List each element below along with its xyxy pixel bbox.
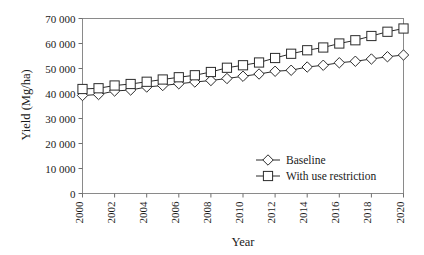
y-tick-label: 10 000 xyxy=(45,163,76,175)
data-point-marker xyxy=(190,71,199,80)
data-point-marker xyxy=(238,61,247,70)
data-point-marker xyxy=(222,63,231,72)
x-tick-label: 2010 xyxy=(233,201,245,224)
data-point-marker xyxy=(94,84,103,93)
data-point-marker xyxy=(206,67,215,76)
y-tick-label: 20 000 xyxy=(45,138,76,150)
data-point-marker xyxy=(367,31,376,40)
data-point-marker xyxy=(383,27,392,36)
legend-label: Baseline xyxy=(286,154,326,166)
x-tick-label: 2006 xyxy=(169,201,181,224)
data-point-marker xyxy=(78,84,87,93)
data-point-marker xyxy=(158,75,167,84)
y-tick-label: 40 000 xyxy=(45,88,76,100)
data-point-marker xyxy=(271,53,280,62)
legend-label: With use restriction xyxy=(286,170,376,182)
data-point-marker xyxy=(319,43,328,52)
data-point-marker xyxy=(303,46,312,55)
x-tick-label: 2014 xyxy=(297,201,309,224)
x-tick-label: 2016 xyxy=(329,201,341,224)
data-point-marker xyxy=(126,79,135,88)
x-tick-label: 2004 xyxy=(137,201,149,224)
x-tick-label: 2000 xyxy=(73,201,85,224)
y-tick-label: 70 000 xyxy=(45,13,76,25)
x-tick-label: 2002 xyxy=(105,202,117,224)
data-point-marker xyxy=(254,58,263,67)
y-tick-label: 50 000 xyxy=(45,63,76,75)
x-tick-label: 2018 xyxy=(361,201,373,224)
data-point-marker xyxy=(174,73,183,82)
legend-marker-square-icon xyxy=(263,171,272,180)
y-tick-label: 0 xyxy=(70,188,76,200)
data-point-marker xyxy=(399,24,408,33)
y-tick-label: 60 000 xyxy=(45,38,76,50)
x-tick-label: 2012 xyxy=(265,202,277,224)
data-point-marker xyxy=(110,81,119,90)
legend-item-baseline[interactable]: Baseline xyxy=(256,154,326,166)
data-point-marker xyxy=(287,49,296,58)
y-tick-label: 30 000 xyxy=(45,113,76,125)
yield-line-chart: 010 00020 00030 00040 00050 00060 00070 … xyxy=(0,0,424,255)
data-point-marker xyxy=(335,39,344,48)
chart-figure: 010 00020 00030 00040 00050 00060 00070 … xyxy=(0,0,424,255)
data-point-marker xyxy=(142,77,151,86)
y-axis-title: Yield (Mg/ha) xyxy=(19,69,33,140)
x-axis-title: Year xyxy=(231,235,255,249)
x-tick-label: 2008 xyxy=(201,201,213,224)
x-tick-label: 2020 xyxy=(394,201,406,224)
data-point-marker xyxy=(351,36,360,45)
